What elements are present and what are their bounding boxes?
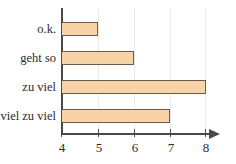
x-tick-8	[205, 129, 206, 137]
x-tick-6	[134, 129, 135, 137]
bar-chart: 4 5 6 7 8 o.k. geht so zu viel viel zu v…	[0, 0, 236, 164]
bar-ok	[62, 22, 98, 36]
gridline-x7	[170, 8, 171, 133]
x-tick-label-4: 8	[194, 140, 218, 155]
x-tick-label-3: 7	[159, 140, 183, 155]
bar-viel-zu-viel	[62, 109, 170, 123]
category-label-ok: o.k.	[0, 22, 56, 36]
x-tick-label-2: 6	[123, 140, 147, 155]
gridline-x8	[205, 8, 206, 133]
x-tick-7	[170, 129, 171, 137]
category-label-geht-so: geht so	[0, 51, 56, 65]
x-tick-5	[98, 129, 99, 137]
x-tick-label-1: 5	[87, 140, 111, 155]
bar-zu-viel	[62, 80, 206, 94]
x-tick-4	[61, 129, 62, 137]
bar-geht-so	[62, 51, 134, 65]
category-label-viel-zu-viel: viel zu viel	[0, 109, 56, 123]
x-tick-label-0: 4	[50, 140, 74, 155]
category-label-zu-viel: zu viel	[0, 80, 56, 94]
x-axis-line	[61, 133, 211, 135]
arrow-right-icon	[209, 129, 220, 139]
